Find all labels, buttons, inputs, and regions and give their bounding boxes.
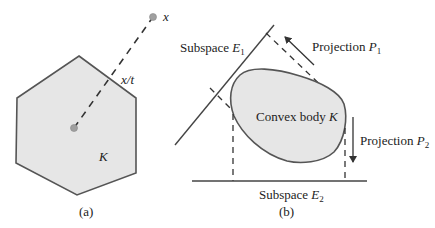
point-x-dot	[150, 14, 157, 21]
figure: x x/t K (a) Subspace E1 Projection P1 Co…	[0, 0, 435, 228]
convex-body-label: Convex body K	[256, 109, 339, 124]
origin-dot	[71, 125, 78, 132]
projection1-arrow	[285, 37, 314, 65]
body-k-label: K	[98, 149, 109, 164]
point-x-label: x	[162, 9, 169, 24]
caption-b: (b)	[279, 204, 294, 219]
scaled-point-label: x/t	[120, 72, 134, 87]
panel-a: x x/t K (a)	[16, 9, 169, 219]
caption-a: (a)	[79, 204, 93, 219]
subspace-e1-label: Subspace E1	[180, 40, 245, 57]
projection2-label: Projection P2	[360, 133, 429, 150]
projection1-label: Projection P1	[312, 39, 381, 56]
subspace-e2-label: Subspace E2	[259, 187, 324, 204]
panel-b: Subspace E1 Projection P1 Convex body K …	[175, 25, 429, 219]
